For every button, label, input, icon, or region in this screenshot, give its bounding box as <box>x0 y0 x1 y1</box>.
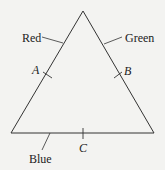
label-a: A <box>31 63 40 77</box>
label-red: Red <box>22 31 41 45</box>
blue-leader-line <box>42 133 50 150</box>
label-green: Green <box>125 31 154 45</box>
label-c: C <box>79 141 88 155</box>
label-b: B <box>124 64 132 78</box>
green-leader-line <box>104 37 122 44</box>
red-leader-line <box>42 37 63 43</box>
label-blue: Blue <box>29 152 52 166</box>
triangle-diagram: Red A Green B C Blue <box>0 0 165 170</box>
